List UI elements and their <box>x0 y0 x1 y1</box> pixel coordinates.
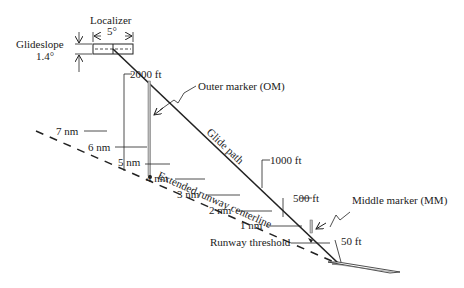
distance-5nm: 5 nm <box>118 156 141 168</box>
ils-approach-diagram: Localizer 5° Glideslope 1.4° Glide path … <box>0 0 464 288</box>
runway-centerline <box>332 264 393 272</box>
middle-marker-label: Middle marker (MM) <box>352 194 448 207</box>
altitude-1000: 1000 ft <box>270 154 301 166</box>
glideslope-height-dimension <box>75 32 92 72</box>
mm-arrow-icon <box>316 223 326 229</box>
glide-path-label: Glide path <box>205 126 247 167</box>
localizer-angle: 5° <box>107 25 117 37</box>
runway-threshold-label: Runway threshold <box>210 236 291 248</box>
om-arrow-icon <box>154 108 163 115</box>
altitude-500: 500 ft <box>293 192 319 204</box>
outer-marker-label: Outer marker (OM) <box>198 80 285 93</box>
glideslope-angle: 1.4° <box>36 50 54 62</box>
distance-1nm: 1 nm <box>240 219 263 231</box>
distance-7nm: 7 nm <box>56 125 79 137</box>
glideslope-label: Glideslope <box>16 38 64 50</box>
distance-6nm: 6 nm <box>88 141 111 153</box>
altitude-2000: 2000 ft <box>130 68 161 80</box>
mm-callout <box>330 212 350 227</box>
distance-3nm: 3 nm <box>177 188 200 200</box>
altitude-50: 50 ft <box>341 235 361 247</box>
altitude-1000-tick <box>262 160 270 188</box>
distance-2nm: 2 nm <box>209 204 232 216</box>
distance-ticks <box>84 131 330 243</box>
distance-4nm: 4 nm <box>146 172 169 184</box>
